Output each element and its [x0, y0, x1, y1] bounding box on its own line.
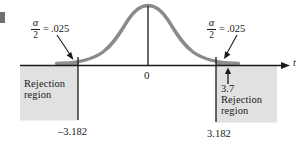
left-alpha-leader-arrowhead — [67, 52, 74, 60]
right-alpha-equals: = — [219, 23, 225, 34]
axis-arrowhead — [281, 62, 290, 69]
right-rejection-line1: Rejection — [221, 94, 262, 105]
right-critical-value-label: 3.182 — [207, 128, 231, 139]
right-rejection-region-label: Rejection region — [221, 94, 262, 117]
left-alpha-denominator: 2 — [32, 30, 39, 40]
right-tail-band — [216, 62, 240, 65]
left-alpha-equals: = — [43, 23, 49, 34]
center-zero-label: 0 — [144, 70, 150, 82]
left-alpha-annotation: α 2 = .025 — [31, 18, 69, 40]
left-alpha-numerator: α — [32, 18, 40, 29]
left-rejection-line1: Rejection — [24, 78, 65, 89]
right-alpha-value: .025 — [227, 23, 245, 34]
right-alpha-fraction: α 2 — [207, 18, 216, 40]
right-alpha-annotation: α 2 = .025 — [207, 18, 245, 40]
test-statistic-value: 3.7 — [221, 83, 234, 94]
left-critical-value-label: –3.182 — [58, 126, 87, 137]
left-tail-band — [55, 62, 79, 65]
right-rejection-line2: region — [221, 105, 262, 116]
left-alpha-value: .025 — [51, 23, 69, 34]
left-rejection-region-label: Rejection region — [24, 78, 65, 101]
left-alpha-fraction: α 2 — [31, 18, 40, 40]
t-distribution-figure: α 2 = .025 α 2 = .025 0 t Rejection regi… — [0, 0, 306, 152]
left-rejection-line2: region — [24, 89, 65, 100]
right-alpha-numerator: α — [208, 18, 216, 29]
right-alpha-denominator: 2 — [208, 30, 215, 40]
axis-name-label: t — [293, 58, 296, 69]
